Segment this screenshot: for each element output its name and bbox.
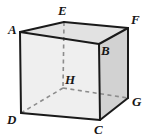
cube-figure: A B C D E F G H [0, 0, 148, 139]
vertex-label-D: D [7, 113, 16, 126]
vertex-label-E: E [58, 4, 67, 17]
face-front-ABCD [20, 32, 100, 120]
edge-A-D [20, 32, 21, 113]
edge-B-C [99, 44, 100, 120]
vertex-label-C: C [94, 123, 103, 136]
vertex-label-H: H [65, 73, 75, 86]
vertex-label-B: B [101, 44, 110, 57]
vertex-label-G: G [132, 95, 141, 108]
edge-E-H [63, 22, 64, 88]
vertex-label-F: F [131, 13, 140, 26]
vertex-label-A: A [8, 23, 17, 36]
cube-drawing [0, 0, 148, 139]
